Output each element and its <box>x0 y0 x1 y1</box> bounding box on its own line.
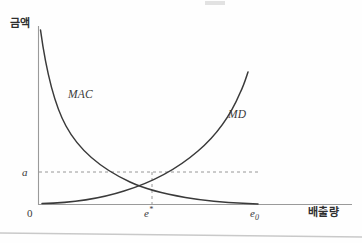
mac-curve <box>41 30 259 204</box>
price-level-label: a <box>22 166 28 178</box>
figure-canvas: 금액 배출량 MAC MD 0 a e* e0 <box>0 0 362 243</box>
initial-emission-subscript: 0 <box>255 213 259 222</box>
scan-line-artifact <box>0 233 362 237</box>
optimal-emission-label: e* <box>144 207 153 219</box>
optimal-emission-superscript: * <box>149 205 153 214</box>
initial-emission-label: e0 <box>250 207 259 219</box>
y-axis-label: 금액 <box>10 14 31 30</box>
mac-curve-label: MAC <box>68 88 93 100</box>
md-curve-label: MD <box>228 108 246 120</box>
origin-label: 0 <box>27 207 33 219</box>
x-axis-label: 배출량 <box>308 203 339 219</box>
